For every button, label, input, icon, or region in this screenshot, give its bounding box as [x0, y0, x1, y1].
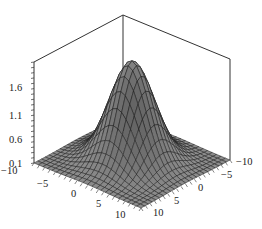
y-tick-minus5: −5 [221, 169, 232, 180]
y-tick-minus10: −10 [236, 156, 252, 167]
z-tick-0.6: 0.6 [9, 134, 22, 145]
x-tick-0: 0 [71, 188, 76, 199]
z-tick-1.1: 1.1 [9, 110, 22, 121]
y-tick-0: 0 [198, 182, 203, 193]
x-tick-minus5: −5 [37, 178, 48, 189]
y-tick-5: 5 [174, 195, 179, 206]
x-tick-5: 5 [96, 198, 101, 209]
x-tick-minus10: −10 [1, 165, 17, 176]
z-tick-1.6: 1.6 [9, 82, 22, 93]
x-tick-10: 10 [115, 209, 126, 220]
surface-plot: 1.6 1.1 0.6 0.1 −10 −5 0 5 10 10 5 0 −5 … [0, 0, 262, 229]
y-tick-10: 10 [153, 207, 164, 218]
